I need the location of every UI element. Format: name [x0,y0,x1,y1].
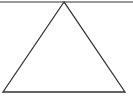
diagram-canvas [0,0,133,99]
triangle [3,2,125,92]
